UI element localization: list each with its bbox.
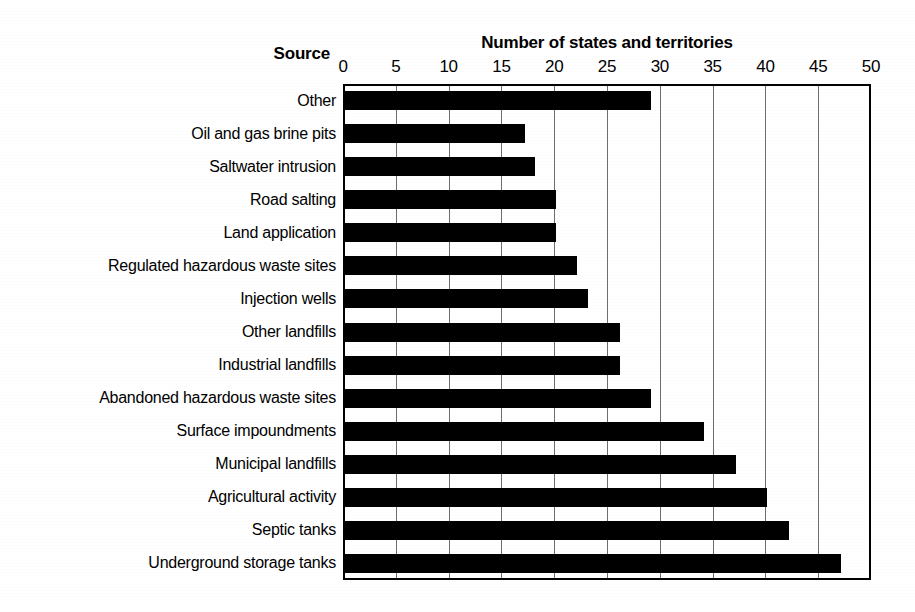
y-axis-category-labels: OtherOil and gas brine pitsSaltwater int… xyxy=(0,84,336,580)
bar xyxy=(345,422,704,441)
y-category-label: Other landfills xyxy=(0,323,336,341)
bar xyxy=(345,124,525,143)
x-tick-label-25: 25 xyxy=(598,57,616,77)
bar xyxy=(345,356,620,375)
y-category-label: Industrial landfills xyxy=(0,356,336,374)
bar xyxy=(345,389,651,408)
x-tick-label-15: 15 xyxy=(492,57,510,77)
x-tick-label-50: 50 xyxy=(862,57,880,77)
y-category-label: Abandoned hazardous waste sites xyxy=(0,389,336,407)
bar xyxy=(345,323,620,342)
x-tick-label-5: 5 xyxy=(391,57,400,77)
y-category-label: Oil and gas brine pits xyxy=(0,125,336,143)
gridline-45 xyxy=(818,86,819,578)
y-category-label: Underground storage tanks xyxy=(0,554,336,572)
y-category-label: Municipal landfills xyxy=(0,455,336,473)
bar-chart: Source Number of states and territories … xyxy=(0,0,915,612)
y-category-label: Regulated hazardous waste sites xyxy=(0,257,336,275)
x-tick-label-30: 30 xyxy=(651,57,669,77)
x-tick-label-35: 35 xyxy=(703,57,721,77)
source-column-header: Source xyxy=(0,44,330,64)
x-tick-label-40: 40 xyxy=(756,57,774,77)
y-category-label: Agricultural activity xyxy=(0,488,336,506)
y-category-label: Road salting xyxy=(0,191,336,209)
bar xyxy=(345,554,841,573)
x-axis-tick-labels: 05101520253035404550 xyxy=(343,57,871,79)
bar xyxy=(345,91,651,110)
bar xyxy=(345,223,556,242)
bar xyxy=(345,521,789,540)
x-tick-label-45: 45 xyxy=(809,57,827,77)
bar xyxy=(345,157,535,176)
y-category-label: Land application xyxy=(0,224,336,242)
bar xyxy=(345,455,736,474)
chart-title: Number of states and territories xyxy=(343,33,871,53)
x-tick-label-0: 0 xyxy=(338,57,347,77)
plot-area xyxy=(343,84,871,580)
y-category-label: Other xyxy=(0,92,336,110)
y-category-label: Injection wells xyxy=(0,290,336,308)
y-category-label: Septic tanks xyxy=(0,521,336,539)
bar xyxy=(345,488,767,507)
bar xyxy=(345,289,588,308)
x-tick-label-10: 10 xyxy=(439,57,457,77)
y-category-label: Surface impoundments xyxy=(0,422,336,440)
bar xyxy=(345,256,577,275)
x-tick-label-20: 20 xyxy=(545,57,563,77)
y-category-label: Saltwater intrusion xyxy=(0,158,336,176)
bar xyxy=(345,190,556,209)
